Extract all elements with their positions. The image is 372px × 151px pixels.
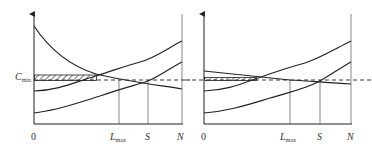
x-origin-label: 0	[201, 131, 206, 142]
cost-curves-diagram: Cmin 0 Lmax S N 0 Lmax S N	[0, 0, 372, 151]
right-panel: 0 Lmax S N	[185, 14, 372, 143]
y-label-cmin: Cmin	[15, 71, 31, 83]
lower-increasing-curve	[34, 62, 182, 113]
left-panel: Cmin 0 Lmax S N	[15, 14, 190, 143]
x-label-s: S	[145, 131, 150, 142]
x-label-n: N	[176, 131, 185, 142]
x-origin-label: 0	[31, 131, 36, 142]
upper-increasing-curve	[34, 41, 182, 91]
x-label-s: S	[317, 131, 322, 142]
x-label-lmax: Lmax	[109, 131, 126, 143]
upper-increasing-curve	[204, 41, 351, 91]
x-label-n: N	[346, 131, 355, 142]
lower-increasing-curve	[204, 62, 351, 113]
x-label-lmax: Lmax	[279, 131, 296, 143]
